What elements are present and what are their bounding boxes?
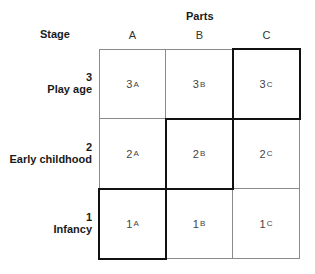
cell-2c: 2C [233, 119, 300, 189]
row-label-early-childhood: 2 Early childhood [0, 141, 92, 165]
stage-header: Stage [40, 28, 70, 40]
cell-3a: 3A [99, 49, 166, 119]
row-name: Infancy [0, 223, 92, 235]
row-name: Early childhood [0, 153, 92, 165]
cell-1b: 1B [166, 189, 233, 259]
column-header-a: A [99, 29, 166, 41]
cell-2b: 2B [166, 119, 233, 189]
row-number: 3 [0, 71, 92, 83]
cell-2a: 2A [99, 119, 166, 189]
row-number: 2 [0, 141, 92, 153]
cell-3b: 3B [166, 49, 233, 119]
cell-3c: 3C [233, 49, 300, 119]
parts-title: Parts [186, 10, 214, 22]
row-number: 1 [0, 211, 92, 223]
row-label-play-age: 3 Play age [0, 71, 92, 95]
row-label-infancy: 1 Infancy [0, 211, 92, 235]
column-header-c: C [233, 29, 300, 41]
cell-1a: 1A [99, 189, 166, 259]
column-header-b: B [166, 29, 233, 41]
stage-parts-grid: 3A 3B 3C 2A 2B 2C 1A 1B 1C [99, 49, 301, 259]
row-name: Play age [0, 83, 92, 95]
cell-1c: 1C [233, 189, 300, 259]
